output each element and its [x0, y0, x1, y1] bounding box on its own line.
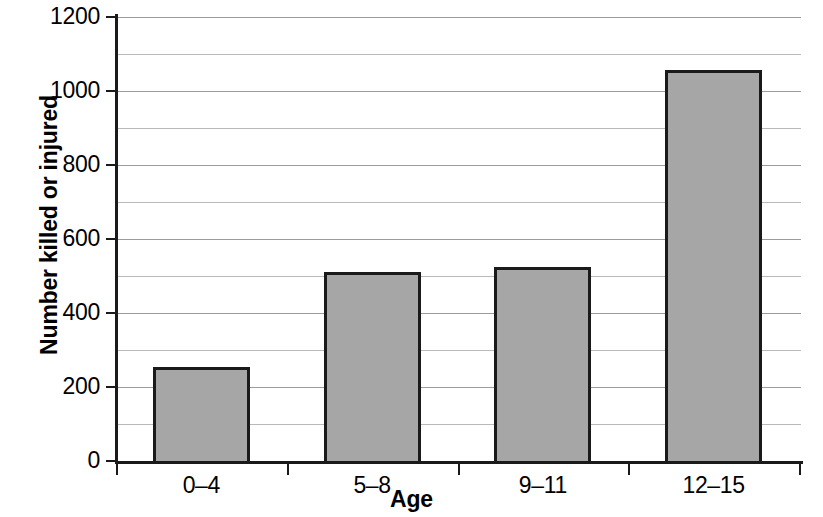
y-axis-tick — [106, 238, 116, 240]
y-axis-tick-label: 1200 — [0, 5, 100, 28]
x-axis-tick-label: 9–11 — [463, 474, 623, 497]
y-axis-tick — [106, 164, 116, 166]
x-axis-tick-origin — [116, 464, 118, 475]
y-axis-tick-label: 200 — [0, 375, 100, 398]
x-axis-tick — [628, 464, 630, 475]
x-axis-tick-label: 12–15 — [634, 474, 794, 497]
gridline-major — [118, 17, 801, 18]
bar-chart-figure: Number killed or injured Age 02004006008… — [0, 0, 823, 517]
y-axis-tick-label: 0 — [0, 449, 100, 472]
y-axis-tick — [106, 312, 116, 314]
x-axis-tick — [287, 464, 289, 475]
x-axis-tick-label: 5–8 — [292, 474, 452, 497]
y-axis-tick — [106, 460, 116, 462]
y-axis-tick — [106, 16, 116, 18]
y-axis-tick-label: 800 — [0, 153, 100, 176]
y-axis-tick — [106, 90, 116, 92]
plot-area — [118, 17, 801, 461]
y-axis-tick — [106, 386, 116, 388]
bar — [153, 367, 250, 461]
bar — [665, 70, 762, 461]
bar — [494, 267, 591, 461]
x-axis-tick — [799, 464, 801, 475]
y-axis-tick-label: 1000 — [0, 79, 100, 102]
y-axis-tick-label: 600 — [0, 227, 100, 250]
gridline-minor — [118, 54, 801, 55]
bar — [324, 272, 421, 461]
x-axis-tick — [458, 464, 460, 475]
y-axis-tick-label: 400 — [0, 301, 100, 324]
y-axis-tick-labels: 020040060080010001200 — [0, 0, 100, 517]
x-axis-tick-label: 0–4 — [121, 474, 281, 497]
